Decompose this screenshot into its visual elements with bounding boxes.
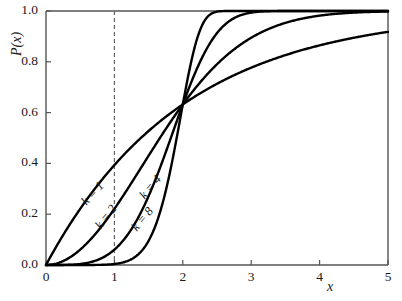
x-tick-label: 1 bbox=[102, 269, 126, 285]
y-tick-label: 0.4 bbox=[0, 154, 38, 170]
y-tick-label: 0.0 bbox=[0, 256, 38, 272]
y-tick-label: 0.2 bbox=[0, 205, 38, 221]
x-tick-label: 3 bbox=[239, 269, 263, 285]
plot-canvas bbox=[0, 0, 402, 301]
y-tick-label: 1.0 bbox=[0, 2, 38, 18]
chart-figure: P(x) x 0.00.20.40.60.81.0 012345 k = 1k … bbox=[0, 0, 402, 301]
y-tick-label: 0.8 bbox=[0, 53, 38, 69]
y-tick-label: 0.6 bbox=[0, 104, 38, 120]
x-tick-label: 2 bbox=[171, 269, 195, 285]
x-tick-label: 5 bbox=[376, 269, 400, 285]
x-tick-label: 4 bbox=[308, 269, 332, 285]
x-tick-label: 0 bbox=[34, 269, 58, 285]
